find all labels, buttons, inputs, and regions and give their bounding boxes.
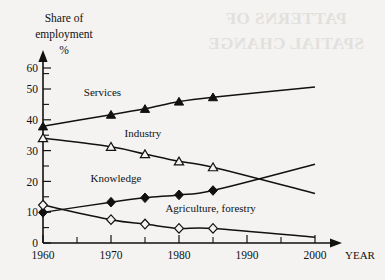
data-point-marker [107, 215, 116, 225]
y-tick-label-0: 0 [32, 237, 38, 249]
data-point-marker [107, 197, 116, 207]
industry-markers [38, 134, 217, 171]
data-point-marker [141, 193, 150, 203]
y-tick-label-60: 60 [27, 62, 39, 74]
series-label-agriculture-forestry: Agriculture, forestry [165, 202, 256, 214]
x-axis-ticks [43, 235, 315, 243]
y-tick-label-40: 40 [27, 114, 39, 126]
y-tick-label-50: 50 [27, 83, 39, 95]
y-axis-arrowhead [38, 50, 47, 62]
x-tick-label-1960: 1960 [32, 249, 55, 261]
y-tick-label-30: 30 [27, 145, 39, 157]
y-tick-label-20: 20 [27, 176, 39, 188]
y-axis-title-unit-percent: % [59, 44, 69, 56]
x-tick-label-2000: 2000 [304, 249, 327, 261]
data-point-marker [39, 200, 48, 210]
series-label-services: Services [84, 86, 121, 98]
y-axis-title-line1: Share of [45, 12, 84, 24]
x-axis-arrowhead [330, 238, 342, 247]
x-axis-title: YEAR [345, 249, 376, 261]
y-axis-title-line2: employment [35, 28, 93, 41]
series-label-knowledge: Knowledge [91, 172, 142, 184]
x-tick-label-1980: 1980 [168, 249, 191, 261]
data-point-marker [209, 186, 218, 196]
industry-line [43, 138, 315, 193]
data-point-marker [141, 219, 150, 229]
x-tick-label-1970: 1970 [100, 249, 123, 261]
y-tick-label-10: 10 [27, 206, 39, 218]
x-axis [43, 238, 342, 247]
data-point-marker [209, 224, 218, 234]
data-point-marker [175, 190, 184, 200]
y-axis-ticks [43, 68, 51, 243]
employment-share-line-chart: Share of employment % 0 10 20 30 40 50 6… [0, 0, 385, 280]
data-point-marker [175, 224, 184, 234]
series-label-industry: Industry [125, 127, 162, 139]
x-tick-label-1990: 1990 [236, 249, 259, 261]
